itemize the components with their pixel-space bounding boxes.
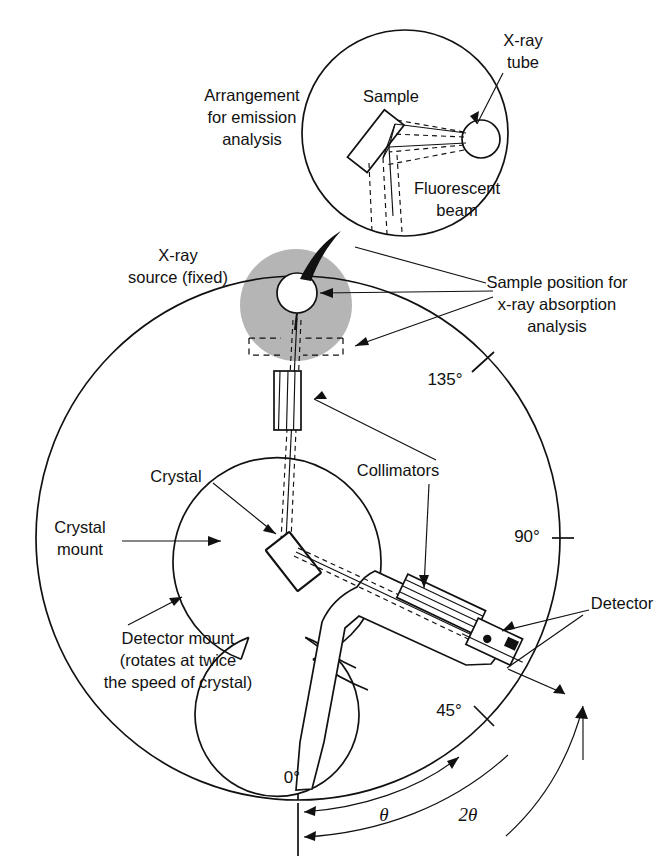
- leader-inset-rim: [355, 247, 486, 283]
- crystal-label: Crystal: [150, 467, 201, 485]
- detector-label: Detector: [591, 594, 654, 612]
- angle-label-135: 135°: [427, 370, 462, 389]
- xray-tube-label-line-2: tube: [507, 53, 539, 71]
- angle-label-45: 45°: [436, 701, 462, 720]
- diagram-canvas: Arrangement for emission analysis Sample…: [0, 0, 671, 868]
- inset-callout-line-2: for emission: [208, 108, 297, 126]
- fluorescent-beam-label-line-2: beam: [436, 201, 477, 219]
- leader-crystal-mount-arrow: [208, 536, 221, 546]
- theta-arrow-right: [447, 757, 459, 769]
- angle-label-90: 90°: [514, 527, 540, 546]
- xray-source-label-line-1: X-ray: [158, 246, 198, 264]
- theta-measure-group: [298, 669, 588, 856]
- crystal-plate: [266, 532, 322, 591]
- sample-position-label-line-3: analysis: [527, 317, 587, 335]
- theta-arrow-left: [304, 806, 316, 816]
- two-theta-arrow-left: [304, 831, 316, 841]
- crystal-mount-label-line-1: Crystal: [54, 518, 105, 536]
- analyzing-crystal: [266, 532, 322, 591]
- detector-mount-body: [296, 571, 505, 790]
- detector-mount-arm: [296, 571, 505, 790]
- leader-sample-position: [355, 297, 493, 346]
- crystal-mount-label-line-2: mount: [57, 540, 103, 558]
- tick-135-deg: [472, 352, 494, 372]
- xray-source-label-line-2: source (fixed): [128, 268, 228, 286]
- inset-sample-label: Sample: [363, 87, 419, 105]
- leader-collimator-source-arrow: [314, 391, 327, 399]
- xray-tube-icon: [462, 120, 500, 158]
- leader-sample-position-arrow: [355, 337, 369, 346]
- inset-callout-line-1: Arrangement: [204, 86, 300, 104]
- detector-mount-label-line-3: the speed of crystal): [104, 673, 253, 691]
- two-theta-outer-indicator-arc: [506, 706, 583, 836]
- angle-label-0: 0°: [284, 768, 300, 787]
- xray-tube-label-line-1: X-ray: [503, 31, 543, 49]
- leader-collimator-source: [314, 399, 436, 460]
- inset-callout-line-3: analysis: [222, 130, 282, 148]
- leader-collimator-detector: [424, 484, 429, 588]
- sample-position-label-line-1: Sample position for: [486, 273, 628, 291]
- detector-mount-label-line-2: (rotates at twice: [120, 651, 236, 669]
- two-theta-label: 2θ: [459, 804, 478, 825]
- theta-label: θ: [379, 804, 388, 825]
- two-theta-outer-arrowhead: [575, 706, 588, 719]
- sample-position-label-line-2: x-ray absorption: [498, 295, 616, 313]
- fluorescent-beam-label-line-1: Fluorescent: [414, 179, 501, 197]
- collimators-label: Collimators: [357, 461, 440, 479]
- detector-mount-label-line-1: Detector mount: [122, 629, 235, 647]
- leader-detector-arrow: [502, 621, 515, 631]
- xray-spectrometer-diagram: Arrangement for emission analysis Sample…: [0, 0, 671, 868]
- collimator-source-side: [274, 371, 301, 430]
